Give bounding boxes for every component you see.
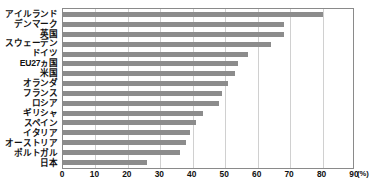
category-label: ギリシャ <box>0 108 60 118</box>
bar-chart: アイルランドデンマーク英国スウェーデンドイツEU27ヵ国米国オランダフランスロシ… <box>0 0 384 192</box>
category-label: 日本 <box>0 158 60 168</box>
bar <box>63 71 235 76</box>
bar <box>63 91 222 96</box>
x-tick-label: 40 <box>187 170 196 178</box>
x-tick-label: 80 <box>317 170 326 178</box>
bar-row <box>63 30 353 40</box>
plot-area <box>62 8 354 169</box>
bar <box>63 22 284 27</box>
x-tick-label: 20 <box>122 170 131 178</box>
bar-row <box>63 118 353 128</box>
bar-row <box>63 10 353 20</box>
category-label: オランダ <box>0 79 60 89</box>
bar-row <box>63 49 353 59</box>
bar-row <box>63 108 353 118</box>
category-axis-labels: アイルランドデンマーク英国スウェーデンドイツEU27ヵ国米国オランダフランスロシ… <box>0 9 60 168</box>
bar <box>63 130 190 135</box>
x-tick-label: 0 <box>60 170 65 178</box>
x-tick-label: 30 <box>155 170 164 178</box>
x-tick-label: 10 <box>90 170 99 178</box>
bar <box>63 160 147 165</box>
bar <box>63 32 284 37</box>
bar-row <box>63 157 353 167</box>
x-tick-label: 50 <box>220 170 229 178</box>
bar-row <box>63 20 353 30</box>
category-label: フランス <box>0 89 60 99</box>
bar <box>63 120 196 125</box>
bar <box>63 101 219 106</box>
bar-row <box>63 59 353 69</box>
bar <box>63 111 203 116</box>
category-label: アイルランド <box>0 9 60 19</box>
category-label: ドイツ <box>0 49 60 59</box>
bar <box>63 150 180 155</box>
category-label: ポルトガル <box>0 148 60 158</box>
x-tick-label: 70 <box>284 170 293 178</box>
bar <box>63 42 271 47</box>
category-label: オーストリア <box>0 138 60 148</box>
bar-row <box>63 128 353 138</box>
bar-row <box>63 147 353 157</box>
bar-row <box>63 98 353 108</box>
category-label: デンマーク <box>0 19 60 29</box>
bar <box>63 81 228 86</box>
category-label: イタリア <box>0 128 60 138</box>
bar-row <box>63 69 353 79</box>
x-axis-tick-labels: 0102030405060708090 <box>62 170 354 184</box>
category-label: ロシア <box>0 98 60 108</box>
x-tick-label: 60 <box>252 170 261 178</box>
bar <box>63 52 248 57</box>
category-label: スペイン <box>0 118 60 128</box>
bar-row <box>63 138 353 148</box>
category-label: スウェーデン <box>0 39 60 49</box>
x-axis-unit-label: (%) <box>357 170 369 178</box>
bar-row <box>63 89 353 99</box>
bar <box>63 140 186 145</box>
bar <box>63 12 323 17</box>
bar-row <box>63 39 353 49</box>
bar-series <box>63 10 353 167</box>
bar <box>63 61 238 66</box>
bar-row <box>63 79 353 89</box>
